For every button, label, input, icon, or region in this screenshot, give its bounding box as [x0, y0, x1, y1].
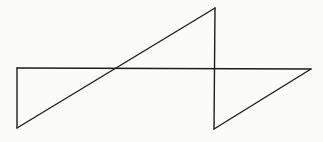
- diagram-edges: [17, 8, 311, 129]
- sawtooth-diagram: [0, 0, 323, 142]
- edge-diagonal-d-e: [214, 69, 311, 129]
- edge-horizontal-e-a: [17, 68, 311, 69]
